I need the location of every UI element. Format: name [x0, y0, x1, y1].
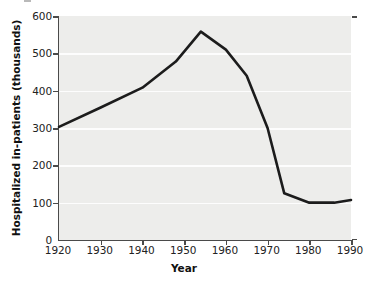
y-tick-label: 600: [32, 10, 52, 22]
axis-tick: [53, 16, 58, 18]
axis-tick: [352, 16, 357, 18]
x-axis-tick-labels: 1920 1930 1940 1950 1960 1970 1980 1990: [58, 244, 350, 260]
x-tick-label: 1940: [128, 244, 154, 256]
plot-area: [58, 16, 351, 241]
y-tick-label: 100: [32, 197, 52, 209]
y-axis-title: Hospitalized in-patients (thousands): [10, 16, 24, 240]
x-tick-label: 1960: [212, 244, 238, 256]
axis-tick: [53, 91, 58, 93]
axis-tick: [53, 203, 58, 205]
x-tick-label: 1970: [253, 244, 279, 256]
x-tick-label: 1990: [337, 244, 363, 256]
x-tick-label: 1920: [45, 244, 71, 256]
chart-figure: 600 500 400 300 200 100 0: [0, 0, 368, 284]
axis-tick: [53, 53, 58, 55]
x-axis-title: Year: [0, 262, 368, 274]
x-tick-label: 1980: [295, 244, 321, 256]
y-tick-label: 300: [32, 122, 52, 134]
y-tick-label: 500: [32, 47, 52, 59]
data-line-hospitalized-inpatients: [59, 16, 351, 240]
axis-tick: [352, 239, 357, 241]
x-tick-label: 1930: [87, 244, 113, 256]
y-tick-label: 200: [32, 159, 52, 171]
x-tick-label: 1950: [170, 244, 196, 256]
y-tick-label: 400: [32, 85, 52, 97]
axis-tick: [53, 165, 58, 167]
axis-tick: [53, 128, 58, 130]
